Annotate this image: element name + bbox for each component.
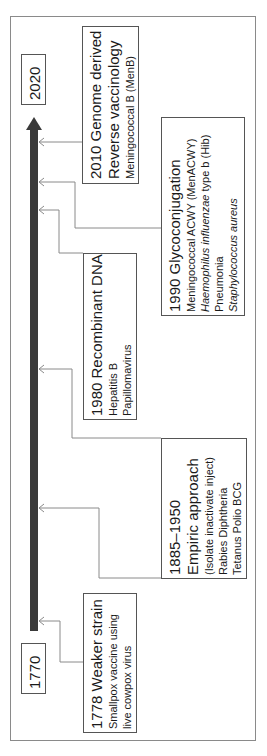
end-year-label: 2020	[21, 54, 46, 105]
event-detail: Staphylococcus aureus	[226, 135, 240, 312]
event-detail-italic: Haemophilus influenzae	[199, 195, 211, 312]
event-title: 1990 Glycoconjugation	[166, 135, 184, 312]
event-detail: live cowpox virus	[120, 599, 134, 729]
event-detail: Papillomavirus	[120, 254, 134, 416]
event-title: Reverse vaccinology	[105, 31, 123, 179]
event-detail: Rabies Diphtheria	[216, 457, 230, 575]
end-year-text: 2020	[26, 67, 44, 100]
event-detail: Haemophilus influenzae type b (Hib)	[198, 135, 212, 312]
event-1778-weaker-strain: 1778 Weaker strain Smallpox vaccine usin…	[83, 593, 137, 733]
start-year-text: 1770	[26, 656, 44, 689]
event-1980-recombinant-dna: 1980 Recombinant DNA Hepatitis B Papillo…	[83, 253, 137, 420]
timeline-bar	[30, 128, 38, 631]
timeline-arrowhead-icon	[26, 117, 42, 130]
event-detail: Hepatitis B	[106, 254, 120, 416]
event-1885-1950-empiric-approach: 1885–1950 Empiric approach (Isolate inac…	[161, 438, 247, 579]
event-detail: Meningococcal ACWY (MenACWY)	[184, 135, 198, 312]
event-detail: Meningococcal B (MenB)	[123, 31, 137, 179]
event-title: 1980 Recombinant DNA	[88, 254, 106, 416]
event-title: 1778 Weaker strain	[88, 599, 106, 729]
event-2010-genome-derived: 2010 Genome derived Reverse vaccinology …	[82, 26, 139, 184]
event-detail-suffix: type b (Hib)	[199, 135, 211, 195]
event-title: 2010 Genome derived	[87, 31, 105, 179]
event-detail: (Isolate inactivate inject)	[202, 457, 216, 575]
start-year-label: 1770	[21, 643, 46, 694]
event-title: Empiric approach	[184, 457, 202, 575]
event-detail: Tetanus Polio BCG	[230, 457, 244, 575]
event-detail: Smallpox vaccine using	[106, 599, 120, 729]
event-title: 1885–1950	[166, 457, 184, 575]
event-detail: Pneumonia	[212, 135, 226, 312]
event-1990-glycoconjugation: 1990 Glycoconjugation Meningococcal ACWY…	[161, 117, 245, 316]
